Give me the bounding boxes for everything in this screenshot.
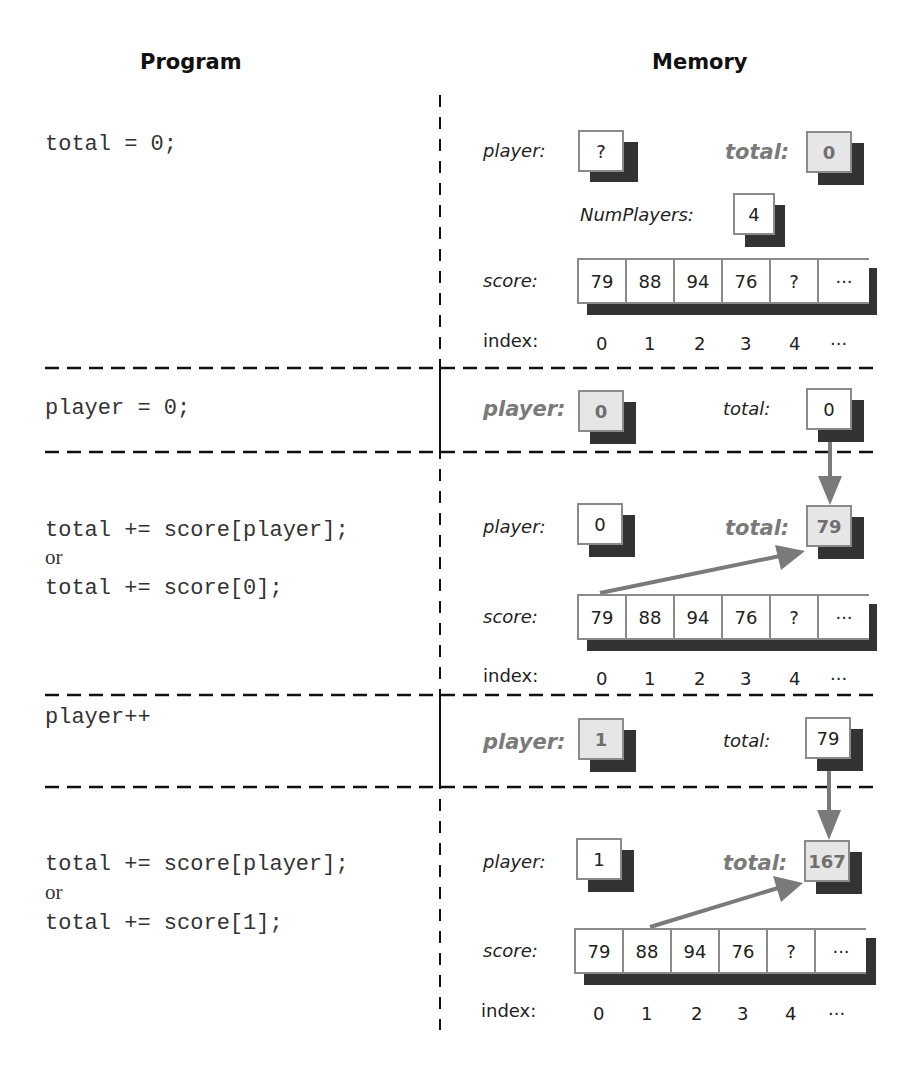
index-value: ··· <box>830 333 847 354</box>
score-cell: 88 <box>627 596 675 638</box>
player-box: 0 <box>577 503 623 545</box>
player-label: player: <box>483 730 565 754</box>
code-line: total += score[player]; <box>45 518 349 543</box>
score-cell: 88 <box>627 260 675 302</box>
score-cell: 94 <box>672 930 720 972</box>
score-cell: 79 <box>576 930 624 972</box>
array-shadow-right <box>865 938 876 985</box>
player-label: player: <box>483 851 546 872</box>
score-array: 79 88 94 76 ? ··· <box>574 928 866 974</box>
index-value: 0 <box>593 1003 604 1024</box>
score-cell: ? <box>768 930 816 972</box>
index-label: index: <box>483 330 538 351</box>
total-label: total: <box>723 730 770 751</box>
numplayers-label: NumPlayers: <box>580 204 694 225</box>
index-label: index: <box>481 1000 536 1021</box>
score-cell: 76 <box>723 260 771 302</box>
score-cell: 79 <box>579 596 627 638</box>
score-cell: ··· <box>819 260 869 302</box>
program-header: Program <box>140 50 242 74</box>
score-cell: ··· <box>819 596 869 638</box>
total-label: total: <box>723 398 770 419</box>
total-box: 79 <box>805 717 851 759</box>
total-box: 79 <box>806 505 852 547</box>
score-cell: ··· <box>816 930 866 972</box>
index-value: 3 <box>740 668 751 689</box>
code-line: total += score[0]; <box>45 576 283 601</box>
code-line: player++ <box>45 705 151 730</box>
index-value: 1 <box>644 668 655 689</box>
array-shadow-bottom <box>584 973 876 985</box>
index-value: 2 <box>691 1003 702 1024</box>
total-label: total: <box>723 851 787 875</box>
index-value: 3 <box>737 1003 748 1024</box>
score-cell: 76 <box>723 596 771 638</box>
score-label: score: <box>483 270 538 291</box>
index-value: ··· <box>830 668 847 689</box>
index-value: 2 <box>694 333 705 354</box>
score-cell: 76 <box>720 930 768 972</box>
score-cell: 79 <box>579 260 627 302</box>
code-line: total += score[1]; <box>45 911 283 936</box>
or-text: or <box>45 880 63 905</box>
score-label: score: <box>483 940 538 961</box>
player-box: ? <box>578 130 624 172</box>
index-value: 3 <box>740 333 751 354</box>
player-box: 1 <box>576 838 622 880</box>
score-label: score: <box>483 606 538 627</box>
total-box: 0 <box>806 388 852 430</box>
index-value: 2 <box>694 668 705 689</box>
score-cell: 94 <box>675 260 723 302</box>
total-label: total: <box>725 516 789 540</box>
player-box: 1 <box>578 718 624 760</box>
total-box: 0 <box>806 131 852 173</box>
array-shadow-bottom <box>587 303 877 315</box>
memory-header: Memory <box>652 50 748 74</box>
score-cell: 88 <box>624 930 672 972</box>
player-box: 0 <box>578 390 624 432</box>
total-box: 167 <box>804 840 850 882</box>
index-value: 0 <box>596 668 607 689</box>
index-value: 0 <box>596 333 607 354</box>
numplayers-box: 4 <box>733 193 775 235</box>
player-label: player: <box>483 397 565 421</box>
code-line: player = 0; <box>45 396 190 421</box>
total-label: total: <box>725 140 789 164</box>
array-shadow-bottom <box>587 639 877 651</box>
or-text: or <box>45 545 63 570</box>
code-line: total += score[player]; <box>45 852 349 877</box>
score-array: 79 88 94 76 ? ··· <box>577 594 869 640</box>
code-line: total = 0; <box>45 132 177 157</box>
index-value: 1 <box>641 1003 652 1024</box>
score-cell: ? <box>771 260 819 302</box>
index-value: 1 <box>644 333 655 354</box>
index-value: 4 <box>789 668 800 689</box>
player-label: player: <box>483 140 546 161</box>
index-value: 4 <box>789 333 800 354</box>
index-value: ··· <box>828 1003 845 1024</box>
index-value: 4 <box>785 1003 796 1024</box>
score-cell: 94 <box>675 596 723 638</box>
player-label: player: <box>483 516 546 537</box>
index-label: index: <box>483 665 538 686</box>
score-array: 79 88 94 76 ? ··· <box>577 258 869 304</box>
step-brackets <box>440 368 448 787</box>
score-cell: ? <box>771 596 819 638</box>
